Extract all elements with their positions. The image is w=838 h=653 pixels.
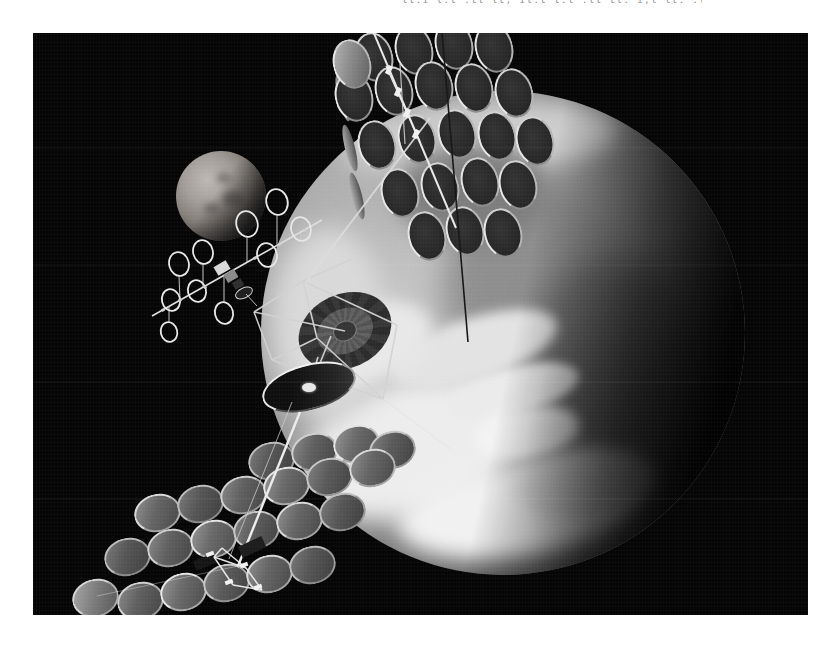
bottom-hub-panel [193,554,217,571]
main-boom [97,566,238,596]
cropped-caption-fragment: lt.i l:t .tl lt, il.t t:l .lt tl. i,l lt… [402,0,702,5]
main-boom [229,402,292,559]
main-boom [442,33,468,342]
bottom-hub-beam [214,548,222,557]
boom-and-guy-wires [33,33,808,615]
cropped-caption-text: lt.i l:t .tl lt, il.t t:l .lt tl. i,l lt… [402,0,702,6]
main-boom [306,118,430,282]
page: { "caption": { "text": "lt.i l:t .tl lt,… [0,0,838,653]
bottom-hub-panel [238,536,267,558]
space-concept-artwork [33,33,808,615]
